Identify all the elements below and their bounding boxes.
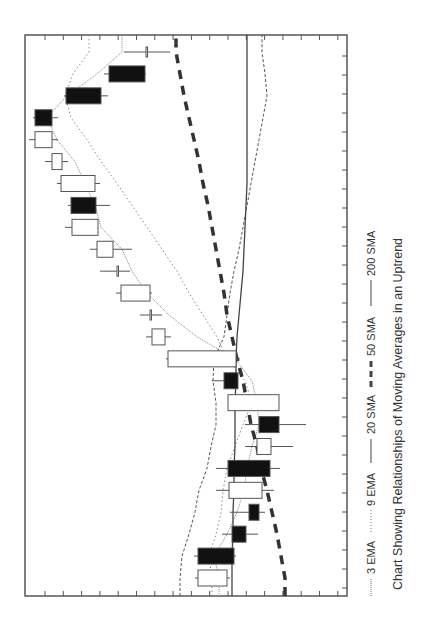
candle	[228, 395, 279, 411]
candle	[29, 132, 58, 148]
candle	[57, 176, 100, 192]
legend-50sma-label: 50 SMA	[365, 316, 377, 356]
candle	[146, 329, 171, 345]
candle	[166, 351, 240, 367]
candle	[68, 197, 110, 213]
candle	[245, 417, 306, 433]
axis-ticks	[45, 35, 347, 596]
candle	[104, 66, 146, 82]
candle	[140, 310, 162, 320]
chart-title: Chart Showing Relationships of Moving Av…	[391, 238, 405, 590]
candle	[90, 241, 132, 257]
candle	[195, 570, 230, 586]
candles	[29, 47, 306, 586]
candle	[33, 110, 58, 126]
plot-frame	[25, 35, 347, 596]
chart-caption: Chart Showing Relationships of Moving Av…	[391, 238, 405, 590]
legend-20sma-label: 20 SMA	[365, 394, 377, 434]
candle	[212, 373, 238, 389]
candle	[222, 526, 258, 542]
legend-3ema-label: 3 EMA	[365, 540, 377, 574]
candle	[116, 285, 152, 301]
candle	[65, 219, 98, 235]
candle	[230, 504, 265, 520]
candle	[245, 439, 293, 455]
candle	[124, 47, 170, 57]
candle	[100, 266, 130, 276]
legend: 3 EMA 9 EMA 20 SMA 50 SMA 200 SMA	[365, 230, 377, 596]
legend-200sma-label: 200 SMA	[365, 230, 377, 276]
legend-9ema-label: 9 EMA	[365, 472, 377, 506]
candle	[45, 154, 68, 170]
candle	[194, 548, 236, 564]
candle	[64, 88, 108, 104]
candlestick-chart: 3 EMA 9 EMA 20 SMA 50 SMA 200 SMA Chart …	[0, 0, 430, 628]
